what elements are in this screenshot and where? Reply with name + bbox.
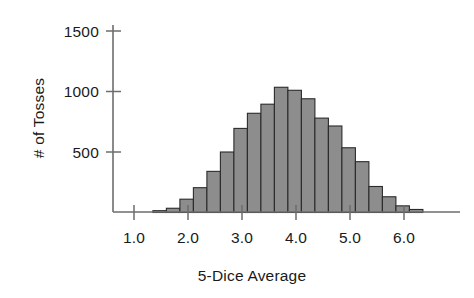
histogram-bar — [301, 99, 315, 213]
histogram-bar — [180, 199, 194, 212]
histogram-bar — [315, 118, 329, 212]
y-axis-tick-label: 1000 — [64, 83, 99, 100]
x-axis-tick-label: 4.0 — [285, 229, 307, 246]
x-axis-tick-label: 1.0 — [123, 229, 145, 246]
histogram-bar — [247, 113, 261, 212]
y-axis-tick-label: 500 — [73, 144, 100, 161]
histogram-bar — [342, 148, 356, 213]
histogram-bar — [193, 188, 207, 213]
histogram-bar — [355, 162, 369, 213]
x-axis-tick-label: 2.0 — [177, 229, 199, 246]
histogram-bar — [328, 126, 342, 213]
histogram-bar — [274, 87, 288, 212]
histogram-bar — [220, 152, 234, 213]
histogram-bar — [207, 171, 221, 212]
histogram-bar — [234, 128, 248, 212]
histogram-bar — [261, 104, 275, 212]
x-axis-tick-label: 3.0 — [231, 229, 253, 246]
x-axis-title: 5-Dice Average — [198, 267, 307, 284]
histogram-bar — [288, 90, 302, 212]
histogram-figure: 50010001500 1.02.03.04.05.06.0 5-Dice Av… — [0, 0, 474, 298]
x-axis-tick-label: 6.0 — [393, 229, 415, 246]
histogram-bar — [369, 186, 383, 212]
bars-group — [153, 87, 423, 212]
x-axis-tick-label: 5.0 — [339, 229, 361, 246]
histogram-bar — [382, 197, 396, 213]
histogram-plot: 50010001500 1.02.03.04.05.06.0 5-Dice Av… — [0, 0, 474, 298]
y-axis-tick-label: 1500 — [64, 23, 99, 40]
y-axis-title: # of Tosses — [30, 78, 47, 158]
